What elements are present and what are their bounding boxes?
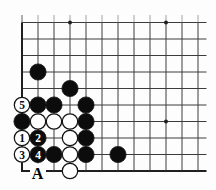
- move-number: 5: [19, 99, 25, 111]
- white-stone: [62, 163, 77, 178]
- go-board: 51234A: [0, 0, 216, 190]
- move-number: 3: [19, 149, 25, 161]
- white-stone: [46, 114, 61, 129]
- star-point: [164, 21, 168, 25]
- black-stone: [78, 146, 94, 162]
- black-stone: [78, 97, 94, 113]
- black-stone: [110, 146, 126, 162]
- move-number: 1: [19, 132, 25, 144]
- white-stone: [62, 147, 77, 162]
- white-stone: [62, 114, 77, 129]
- star-point: [164, 120, 168, 124]
- black-stone: [30, 64, 46, 80]
- black-stone: [46, 97, 62, 113]
- black-stone: [78, 113, 94, 129]
- star-point: [68, 21, 72, 25]
- black-stone: [46, 146, 62, 162]
- black-stone: [62, 80, 78, 96]
- go-diagram-page: 51234A: [0, 0, 216, 190]
- white-stone: [62, 130, 77, 145]
- move-number: 4: [35, 149, 41, 161]
- move-number: 2: [35, 132, 41, 144]
- white-stone: [30, 114, 45, 129]
- point-label-A: A: [32, 165, 44, 182]
- black-stone: [78, 130, 94, 146]
- black-stone: [30, 97, 46, 113]
- black-stone: [14, 113, 30, 129]
- page-background: [0, 0, 216, 190]
